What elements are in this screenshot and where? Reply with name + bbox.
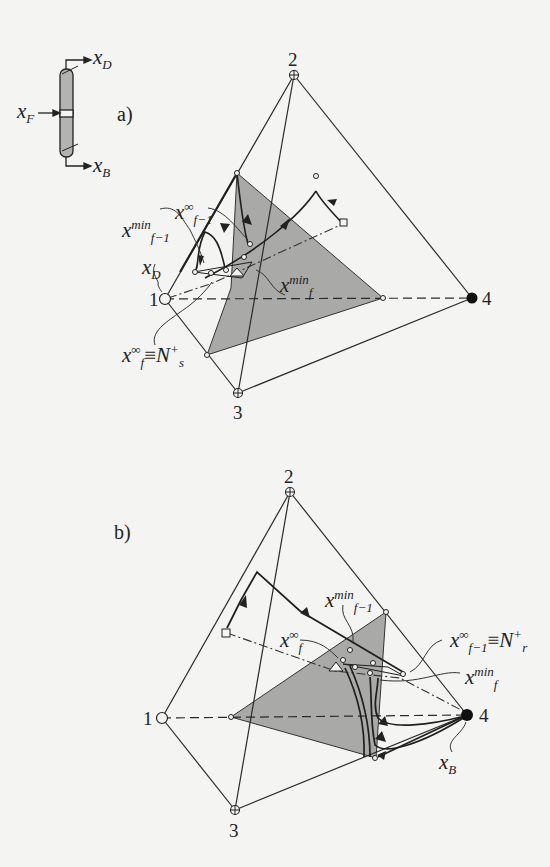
panel-b-vertex-2-label: 2 <box>284 467 294 486</box>
panel-b-vertex-4-marker <box>461 709 473 721</box>
panel-a-x-f-minus-1-inf-label: x∞f−1 <box>175 200 213 226</box>
bottoms-label: xB <box>93 155 110 179</box>
distillation-column-icon <box>38 57 91 169</box>
panel-b-x-f-minus-1-inf-Nr-label: x∞f−1≡N+r <box>450 628 527 654</box>
panel-b-x-f-minus-1-min-label: xminf−1 <box>325 588 373 614</box>
panel-a-vertex-3-label: 3 <box>233 403 243 422</box>
distillate-label: xD <box>93 47 112 71</box>
panel-a-tetrahedron <box>154 71 478 398</box>
panel-a-vertex-3-marker <box>234 389 243 398</box>
panel-a-vertex-1-label: 1 <box>149 290 159 309</box>
panel-a-vertex-4-label: 4 <box>482 289 492 308</box>
panel-a-x-f-minus-1-min-label: xminf−1 <box>122 218 170 244</box>
feed-label: xF <box>17 101 34 125</box>
panel-b-vertex-1-label: 1 <box>143 709 153 728</box>
panel-b-vertex-3-marker <box>231 806 240 815</box>
panel-a-vertex-4-marker <box>467 293 478 304</box>
panel-a-vertex-2-label: 2 <box>288 50 298 69</box>
panel-a-shaded-plane <box>207 173 383 355</box>
panel-b-vertex-3-label: 3 <box>229 821 239 840</box>
panel-a-x-f-min-label: xminf <box>280 273 312 299</box>
panel-b-label: b) <box>114 522 131 542</box>
panel-a-x-D-label: xD <box>142 257 161 281</box>
panel-b-tetrahedron <box>157 488 474 815</box>
panel-b-x-f-min-label: xminf <box>465 665 497 691</box>
panel-b-x-f-inf-label: x∞f <box>280 628 302 654</box>
panel-a-x-f-inf-Ns-label: x∞f≡N+s <box>122 343 184 369</box>
panel-b-vertex-4-label: 4 <box>479 706 489 725</box>
panel-b-x-B-label: xB <box>439 752 456 776</box>
panel-a-vertex-1-marker <box>160 294 171 305</box>
figure-root: xD xF xB a) 2 1 3 4 x∞f−1 xminf−1 xD xmi… <box>0 0 550 867</box>
panel-b-vertex-2-marker <box>286 488 295 497</box>
panel-a-vertex-2-marker <box>290 71 299 80</box>
tetrahedra-diagram <box>0 0 550 867</box>
panel-a-label: a) <box>117 104 133 124</box>
panel-b-vertex-1-marker <box>157 713 168 724</box>
